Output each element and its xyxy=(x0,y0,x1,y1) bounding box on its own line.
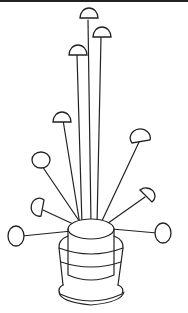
pin-shaft xyxy=(88,20,91,225)
pin-shaft xyxy=(112,229,157,233)
pot-band xyxy=(61,262,121,267)
pin-shaft xyxy=(97,37,101,225)
pot-wall-left xyxy=(59,248,63,285)
pin-head xyxy=(31,198,44,216)
pin-head xyxy=(8,226,24,246)
pincushion-drawing xyxy=(0,0,188,313)
pin-shaft xyxy=(100,140,140,225)
pin-head xyxy=(130,129,150,143)
pin-head xyxy=(155,223,171,243)
pot-foot xyxy=(59,285,123,301)
pot-base xyxy=(59,292,124,305)
pin-shaft xyxy=(104,197,145,226)
cushion-top xyxy=(68,219,114,239)
pin-head xyxy=(32,152,50,168)
pin-head xyxy=(69,45,87,55)
pin-head xyxy=(93,27,111,37)
pin-shaft xyxy=(77,55,82,225)
pin-head xyxy=(80,8,98,18)
pincushion-pot xyxy=(59,219,124,305)
pin-head xyxy=(53,112,71,122)
pin-shaft xyxy=(22,231,72,236)
pot-wall-right xyxy=(118,248,123,285)
pin-head xyxy=(140,188,155,202)
